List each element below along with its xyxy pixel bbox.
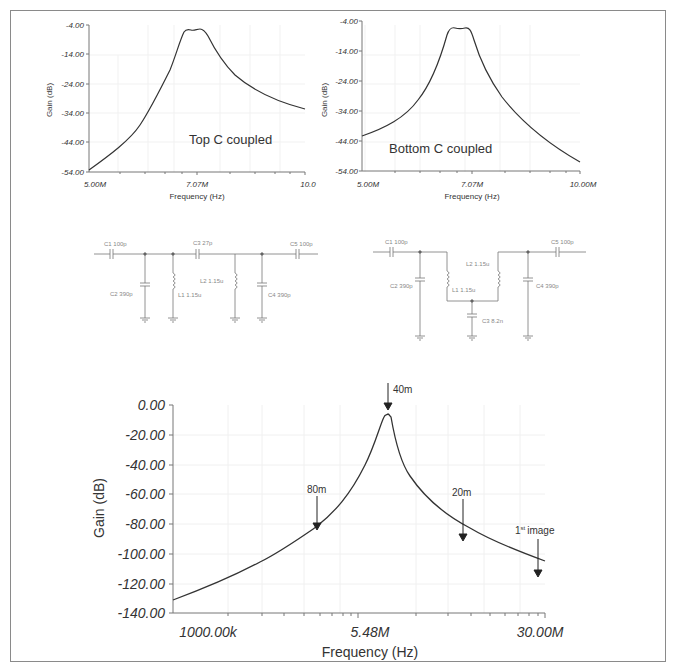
x-tick: 5.00M [84, 180, 107, 189]
component-label: L2 1.15u [466, 261, 489, 267]
component-label: C3 8.2n [482, 318, 503, 324]
y-tick: -34.00 [61, 109, 84, 118]
plot-top-c-curve [89, 29, 305, 170]
y-tick: -140.00 [118, 605, 166, 621]
y-tick: -60.00 [125, 486, 165, 502]
y-tick: -40.00 [125, 457, 165, 473]
x-tick: 5.48M [351, 624, 390, 640]
y-tick: -44.00 [61, 138, 84, 147]
y-tick: -120.00 [118, 576, 166, 592]
x-axis-label: Frequency (Hz) [169, 192, 224, 201]
x-tick: 30.00M [517, 624, 564, 640]
y-tick: -14.00 [61, 50, 84, 59]
y-tick: 0.00 [138, 397, 165, 413]
x-tick: 5.00M [357, 180, 380, 189]
plot-wideband-curve [173, 414, 545, 600]
circuit-top-c-coupled [94, 249, 318, 322]
x-tick: 7.07M [186, 180, 209, 189]
component-label: C2 390p [390, 283, 413, 289]
x-tick: 10.00M [570, 180, 597, 189]
y-tick: -34.00 [335, 107, 358, 116]
component-label: C4 390p [536, 283, 559, 289]
y-tick: -4.00 [340, 17, 359, 26]
y-tick: -54.00 [335, 167, 358, 176]
component-label: C3 27p [193, 240, 213, 246]
component-label: C1 100p [104, 241, 127, 247]
component-label: L1 1.15u [178, 292, 201, 298]
y-tick: -80.00 [125, 516, 165, 532]
y-tick: -20.00 [125, 427, 165, 443]
y-tick: -14.00 [335, 47, 358, 56]
component-label: C4 390p [268, 292, 291, 298]
marker-80m-label: 80m [307, 484, 326, 495]
y-axis-label: Gain (dB) [91, 478, 107, 538]
x-axis-label: Frequency (Hz) [444, 192, 499, 201]
plot-top-c-coupled: -4.00 -14.00 -24.00 -34.00 -44.00 -54.00… [45, 21, 316, 201]
component-label: C1 100p [385, 239, 408, 245]
circuit-top-c-labels: C1 100p C2 390p L1 1.15u C3 27p L2 1.15u… [104, 240, 313, 298]
marker-20m-label: 20m [452, 487, 471, 498]
plot-bottom-c-coupled: -4.00 -14.00 -24.00 -34.00 -44.00 -54.00… [320, 17, 597, 201]
marker-1st-image-label: 1stimage [515, 525, 555, 536]
marker-40m-label: 40m [393, 384, 412, 395]
plot-caption: Bottom C coupled [389, 141, 492, 156]
component-label: L1 1.15u [452, 287, 475, 293]
y-tick: -54.00 [61, 168, 84, 177]
y-axis-label: Gain (dB) [45, 83, 54, 118]
y-tick: -100.00 [118, 546, 166, 562]
y-tick: -44.00 [335, 137, 358, 146]
component-label: L2 1.15u [200, 278, 223, 284]
x-axis-label: Frequency (Hz) [322, 644, 418, 660]
x-tick: 10.0 [300, 180, 316, 189]
component-label: C2 390p [110, 291, 133, 297]
x-tick: 7.07M [461, 180, 484, 189]
plot-caption: Top C coupled [189, 132, 272, 147]
component-label: C5 100p [290, 241, 313, 247]
y-tick: -24.00 [335, 77, 358, 86]
plot-wideband-response: 0.00 -20.00 -40.00 -60.00 -80.00 -100.00… [91, 383, 564, 660]
component-label: C5 100p [551, 239, 574, 245]
y-tick: -4.00 [66, 21, 85, 30]
x-tick: 1000.00k [179, 624, 238, 640]
figure-canvas: -4.00 -14.00 -24.00 -34.00 -44.00 -54.00… [0, 0, 677, 669]
y-tick: -24.00 [61, 80, 84, 89]
y-axis-label: Gain (dB) [320, 83, 329, 118]
